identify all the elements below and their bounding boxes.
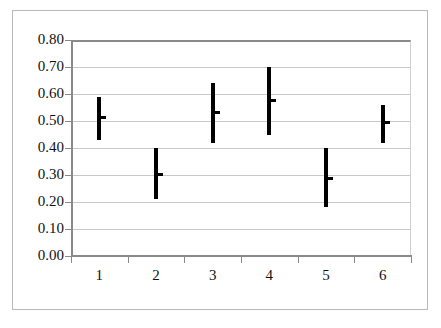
x-axis-tick-label: 1 [79,268,119,283]
mean-marker [97,116,106,119]
x-tick-mark [71,257,72,263]
y-axis-tick-label: 0.30 [4,167,64,182]
mean-marker [381,121,390,124]
gridline [71,67,411,68]
x-tick-mark [298,257,299,263]
x-axis-tick-label: 5 [306,268,346,283]
y-tick-mark [65,175,71,176]
y-axis-tick-label: 0.60 [4,86,64,101]
x-tick-mark [241,257,242,263]
x-tick-mark [411,257,412,263]
gridline [71,94,411,95]
x-axis-tick-label: 2 [136,268,176,283]
mean-marker [154,173,163,176]
y-tick-mark [65,229,71,230]
chart-figure: 0.800.700.600.500.400.300.200.100.00 123… [0,0,441,328]
x-tick-mark [184,257,185,263]
x-tick-mark [128,257,129,263]
mean-marker [267,99,276,102]
x-axis-tick-label: 4 [249,268,289,283]
x-axis-tick-label: 3 [193,268,233,283]
y-axis-tick-labels: 0.800.700.600.500.400.300.200.100.00 [0,0,64,328]
y-axis-line [71,40,73,257]
gridline [71,202,411,203]
y-axis-tick-label: 0.50 [4,113,64,128]
y-tick-mark [65,148,71,149]
gridline [71,229,411,230]
y-axis-tick-label: 0.20 [4,194,64,209]
gridline [71,175,411,176]
y-axis-tick-label: 0.40 [4,140,64,155]
y-axis-tick-label: 0.80 [4,32,64,47]
y-tick-mark [65,40,71,41]
range-bar [381,105,385,143]
gridline [71,148,411,149]
y-axis-tick-label: 0.70 [4,59,64,74]
y-axis-tick-label: 0.10 [4,221,64,236]
x-axis-tick-label: 6 [363,268,403,283]
y-tick-mark [65,94,71,95]
y-tick-mark [65,202,71,203]
x-tick-mark [354,257,355,263]
y-axis-tick-label: 0.00 [4,248,64,263]
gridline [71,121,411,122]
mean-marker [324,177,333,180]
mean-marker [211,111,220,114]
y-tick-mark [65,67,71,68]
y-tick-mark [65,121,71,122]
